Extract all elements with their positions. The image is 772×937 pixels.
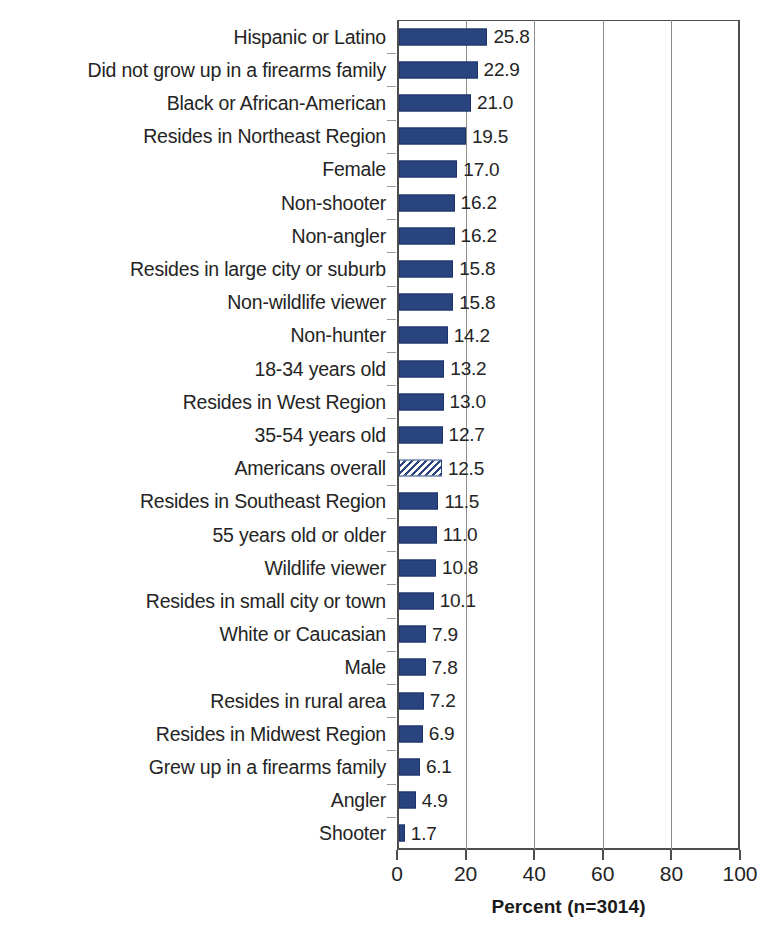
y-axis-tick [387,120,396,121]
y-axis-tick [387,153,396,154]
bar [399,758,420,775]
bar-value-label: 7.2 [430,690,456,712]
bar [399,28,487,45]
bar [399,194,455,211]
bar-value-label: 10.1 [440,590,476,612]
y-axis-tick [387,319,396,320]
bar-value-label: 10.8 [442,557,478,579]
x-axis-tick-label: 80 [660,862,683,886]
y-axis-tick [387,551,396,552]
bar-value-label: 6.1 [426,756,452,778]
y-axis-tick [387,286,396,287]
bar-row: Non-wildlife viewer15.8 [0,286,772,319]
bar-row: Male7.8 [0,651,772,684]
bar-row: Americans overall12.5 [0,452,772,485]
bar-rows: Hispanic or Latino25.8Did not grow up in… [0,20,772,850]
bar [399,460,442,477]
bar [399,327,448,344]
bar [399,161,457,178]
x-axis-tick-label: 0 [391,862,403,886]
y-axis-tick [387,618,396,619]
bar-row: Resides in Northeast Region19.5 [0,120,772,153]
category-label: Resides in Midwest Region [156,722,386,745]
bar-value-label: 17.0 [463,158,499,180]
category-label: 55 years old or older [212,523,386,546]
y-axis-tick [387,518,396,519]
x-axis-tick-100 [739,850,741,860]
x-axis-tick-40 [533,850,535,860]
bar-row: 35-54 years old12.7 [0,418,772,451]
category-label: Did not grow up in a firearms family [88,58,386,81]
category-label: Female [322,158,386,181]
category-label: Black or African-American [167,91,386,114]
category-label: Resides in rural area [210,689,386,712]
x-axis: 020406080100 [0,850,772,862]
category-label: Non-angler [292,224,386,247]
bar-row: Hispanic or Latino25.8 [0,20,772,53]
bar-row: Wildlife viewer10.8 [0,551,772,584]
bar [399,294,453,311]
bar-row: Resides in large city or suburb15.8 [0,252,772,285]
category-label: Shooter [319,822,386,845]
bar-row: Resides in Southeast Region11.5 [0,485,772,518]
bar [399,393,444,410]
category-label: Wildlife viewer [264,556,386,579]
x-axis-title: Percent (n=3014) [397,896,740,918]
category-label: 35-54 years old [255,423,386,446]
y-axis-tick [387,717,396,718]
category-label: Hispanic or Latino [234,25,387,48]
bar [399,725,423,742]
category-label: White or Caucasian [219,623,386,646]
bar-row: Resides in small city or town10.1 [0,584,772,617]
y-axis-tick [387,651,396,652]
bar-value-label: 12.7 [449,424,485,446]
bar [399,659,426,676]
bar [399,227,455,244]
bar-row: Resides in Midwest Region6.9 [0,717,772,750]
y-axis-tick [387,784,396,785]
bar-value-label: 15.8 [459,291,495,313]
x-axis-tick-label: 100 [722,862,757,886]
category-label: Americans overall [234,457,386,480]
bar [399,792,416,809]
bar-value-label: 12.5 [448,457,484,479]
bar-value-label: 11.5 [444,490,479,512]
bar [399,128,466,145]
bar [399,592,434,609]
bar-value-label: 19.5 [472,125,508,147]
bar-value-label: 13.0 [450,391,486,413]
y-axis-tick [387,186,396,187]
bar [399,260,453,277]
bar-row: Black or African-American21.0 [0,86,772,119]
bar [399,559,436,576]
bar [399,493,438,510]
bar-row: Resides in rural area7.2 [0,684,772,717]
y-axis-tick [387,252,396,253]
x-axis-tick-20 [465,850,467,860]
bar-chart: Hispanic or Latino25.8Did not grow up in… [0,0,772,937]
x-axis-tick-60 [602,850,604,860]
bar [399,360,444,377]
y-axis-tick [387,584,396,585]
category-label: 18-34 years old [255,357,386,380]
bar [399,61,478,78]
bar-row: White or Caucasian7.9 [0,618,772,651]
bar-value-label: 14.2 [454,324,490,346]
bar [399,526,437,543]
category-label: Resides in Northeast Region [143,125,386,148]
bar-row: Resides in West Region13.0 [0,385,772,418]
category-label: Angler [331,789,386,812]
bar-value-label: 7.8 [432,656,458,678]
bar-value-label: 4.9 [422,789,448,811]
category-label: Non-hunter [290,324,386,347]
bar-value-label: 13.2 [450,358,486,380]
bar-value-label: 15.8 [459,258,495,280]
bar [399,94,471,111]
x-axis-tick-label: 40 [523,862,546,886]
bar-value-label: 21.0 [477,92,513,114]
y-axis-tick [387,385,396,386]
category-label: Resides in small city or town [146,589,386,612]
bar-value-label: 6.9 [429,723,455,745]
category-label: Non-wildlife viewer [227,291,386,314]
bar-value-label: 7.9 [432,623,458,645]
